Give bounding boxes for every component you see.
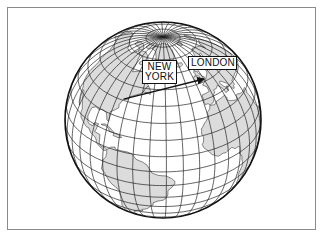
london-label: LONDON: [188, 56, 237, 70]
new-york-label: NEW YORK: [142, 60, 177, 84]
globe-map: [0, 0, 320, 235]
new-york-label-line2: YORK: [145, 72, 174, 82]
